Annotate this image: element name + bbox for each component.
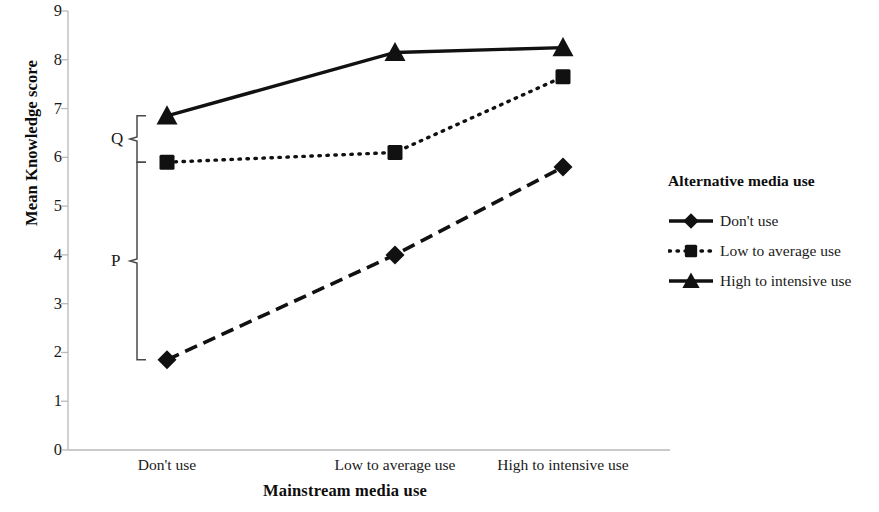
- x-axis-tick-label: High to intensive use: [497, 455, 628, 475]
- x-axis-tick-label: Low to average use: [335, 455, 456, 475]
- legend-title: Alternative media use: [668, 172, 879, 190]
- annotation-label-p: P: [111, 252, 120, 269]
- legend-item: Low to average use: [668, 236, 879, 266]
- legend-triangle-marker-icon: [668, 272, 714, 290]
- legend-item-label: Don't use: [720, 212, 778, 230]
- x-axis-tick-label: Don't use: [138, 455, 196, 475]
- series-lines: [167, 48, 563, 360]
- legend-item-label: Low to average use: [720, 242, 841, 260]
- legend-item-label: High to intensive use: [720, 272, 851, 290]
- legend-item: High to intensive use: [668, 266, 879, 296]
- chart-legend: Alternative media use Don't useLow to av…: [668, 172, 879, 296]
- x-axis-title: Mainstream media use: [0, 481, 690, 501]
- axis-lines: [68, 11, 670, 450]
- legend-item: Don't use: [668, 206, 879, 236]
- chart-figure: Mean Knowledge score 9876543210 QP Don't…: [0, 0, 879, 512]
- legend-items: Don't useLow to average useHigh to inten…: [668, 206, 879, 296]
- legend-diamond-marker-icon: [668, 212, 714, 230]
- y-axis-tick-marks: [61, 11, 68, 450]
- series-markers: [157, 37, 574, 369]
- annotation-braces: [130, 116, 146, 360]
- annotation-label-q: Q: [111, 130, 123, 147]
- x-axis-tick-labels: Don't useLow to average useHigh to inten…: [0, 455, 690, 481]
- legend-square-marker-icon: [668, 242, 714, 260]
